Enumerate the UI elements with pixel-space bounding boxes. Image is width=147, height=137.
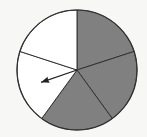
spinner-diagram — [0, 0, 147, 137]
